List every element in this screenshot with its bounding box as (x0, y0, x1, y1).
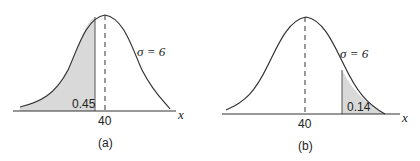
normal-curves-figure: 0.45 40 σ = 6 x (a) 0.14 40 σ = 6 x (b) (0, 0, 420, 161)
area-label-a: 0.45 (72, 97, 96, 111)
axis-label-b: x (401, 110, 408, 125)
area-label-b: 0.14 (347, 100, 371, 114)
mean-label-a: 40 (98, 114, 112, 128)
panel-b: 0.14 40 σ = 6 x (b) (222, 17, 408, 153)
sigma-label-a: σ = 6 (137, 44, 166, 59)
caption-a: (a) (98, 136, 113, 150)
panel-a: 0.45 40 σ = 6 x (a) (13, 15, 184, 150)
caption-b: (b) (298, 139, 313, 153)
sigma-label-b: σ = 6 (340, 46, 369, 61)
axis-label-a: x (177, 107, 184, 122)
mean-label-b: 40 (298, 117, 312, 131)
